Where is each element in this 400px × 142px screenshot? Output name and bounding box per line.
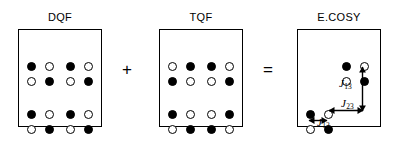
peak-dot-filled bbox=[168, 77, 177, 86]
peak-dot-filled bbox=[168, 110, 177, 119]
peak-dot-open bbox=[207, 110, 216, 119]
peak-dot-open bbox=[84, 110, 93, 119]
panel-title-ecosy: E.COSY bbox=[297, 11, 381, 24]
peak-dot-open bbox=[225, 125, 234, 134]
peak-dot-filled bbox=[27, 62, 36, 71]
panel-box-dqf bbox=[18, 29, 102, 127]
peak-dot-open bbox=[27, 77, 36, 86]
peak-dot-filled bbox=[207, 62, 216, 71]
peak-dot-filled bbox=[27, 110, 36, 119]
peak-dot-filled bbox=[66, 110, 75, 119]
peak-dot-open bbox=[168, 125, 177, 134]
peak-dot-open bbox=[45, 62, 54, 71]
peak-dot-filled bbox=[225, 110, 234, 119]
operator-equals: = bbox=[260, 61, 276, 78]
peak-dot-open bbox=[186, 110, 195, 119]
peak-dot-filled bbox=[84, 125, 93, 134]
peak-dot-open bbox=[66, 77, 75, 86]
figure-canvas: DQFTQFE.COSY+=J13J23J12 bbox=[0, 0, 400, 142]
peak-dot-filled bbox=[45, 77, 54, 86]
peak-dot-open bbox=[207, 77, 216, 86]
coupling-label-j23: J23 bbox=[341, 98, 353, 110]
peak-dot-filled bbox=[186, 125, 195, 134]
panel-title-tqf: TQF bbox=[159, 11, 243, 24]
operator-plus: + bbox=[119, 61, 135, 78]
peak-dot-filled bbox=[66, 62, 75, 71]
peak-dot-open bbox=[168, 62, 177, 71]
coupling-subscript-j12: 12 bbox=[322, 121, 330, 130]
coupling-label-j12: J12 bbox=[317, 117, 329, 129]
panel-box-tqf bbox=[159, 29, 243, 127]
peak-dot-filled bbox=[342, 62, 351, 71]
peak-dot-open bbox=[84, 62, 93, 71]
peak-dot-open bbox=[27, 125, 36, 134]
peak-dot-open bbox=[306, 125, 315, 134]
peak-dot-filled bbox=[207, 125, 216, 134]
peak-dot-open bbox=[186, 77, 195, 86]
peak-dot-filled bbox=[45, 125, 54, 134]
peak-dot-filled bbox=[186, 62, 195, 71]
coupling-label-j13: J13 bbox=[339, 78, 351, 90]
panel-title-dqf: DQF bbox=[18, 11, 102, 24]
coupling-subscript-j13: 13 bbox=[344, 82, 352, 91]
peak-dot-open bbox=[66, 125, 75, 134]
coupling-subscript-j23: 23 bbox=[346, 102, 354, 111]
peak-dot-filled bbox=[225, 77, 234, 86]
peak-dot-open bbox=[225, 62, 234, 71]
peak-dot-filled bbox=[84, 77, 93, 86]
peak-dot-open bbox=[45, 110, 54, 119]
